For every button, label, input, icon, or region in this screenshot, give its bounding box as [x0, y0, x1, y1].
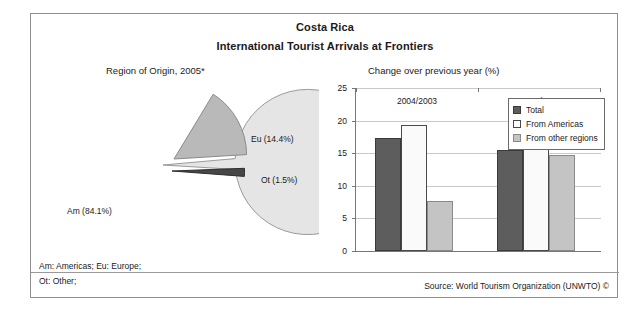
- y-tickmark-15: [352, 153, 356, 154]
- y-tick-25: 25: [325, 83, 347, 93]
- bar-chart-caption: Change over previous year (%): [368, 65, 499, 76]
- legend-label-total: Total: [526, 105, 544, 115]
- legend-item-americas: From Americas: [513, 117, 598, 131]
- pie-slice-other: [172, 168, 245, 176]
- y-tick-15: 15: [325, 148, 347, 158]
- chart-frame: Costa Rica International Tourist Arrival…: [30, 13, 618, 298]
- y-tick-5: 5: [325, 213, 347, 223]
- legend-swatch-americas: [513, 120, 521, 128]
- pie-slice-americas: [163, 89, 319, 234]
- pie-label-other: Ot (1.5%): [261, 175, 297, 185]
- y-tick-10: 10: [325, 181, 347, 191]
- legend-item-total: Total: [513, 103, 598, 117]
- bar-2004-2003-total: [375, 138, 401, 251]
- pie-label-americas: Am (84.1%): [67, 206, 112, 216]
- legend-swatch-total: [513, 106, 521, 114]
- screenshot-root: Costa Rica International Tourist Arrival…: [0, 0, 643, 313]
- pie-chart-canvas: Eu (14.4%) Ot (1.5%) Am (84.1%): [39, 80, 319, 250]
- y-tickmark-10: [352, 186, 356, 187]
- bar-2005-2004-total: [497, 150, 523, 251]
- page-subtitle: International Tourist Arrivals at Fronti…: [31, 40, 619, 52]
- footnote-abbreviations-line2: Ot: Other;: [39, 276, 76, 286]
- source-credit: Source: World Tourism Organization (UNWT…: [424, 281, 609, 291]
- x-tickmark-mid: [478, 88, 479, 92]
- y-tick-0: 0: [325, 246, 347, 256]
- bar-2004-2003-americas: [401, 125, 427, 251]
- bar-2005-2004-americas: [523, 145, 549, 251]
- bar-chart-legend: Total From Americas From other regions: [508, 98, 605, 150]
- y-tickmark-0: [352, 251, 356, 252]
- x-label-2004-2003: 2004/2003: [377, 96, 457, 106]
- y-tick-20: 20: [325, 116, 347, 126]
- bar-chart: 25 20 15 10 5 0: [325, 80, 613, 265]
- pie-chart: Eu (14.4%) Ot (1.5%) Am (84.1%): [39, 80, 319, 250]
- footnote-abbreviations-line1: Am: Americas; Eu: Europe;: [39, 261, 141, 271]
- legend-label-americas: From Americas: [526, 119, 583, 129]
- y-tickmark-5: [352, 218, 356, 219]
- bar-2004-2003-other: [427, 201, 453, 251]
- footer-divider: [31, 272, 619, 273]
- y-tickmark-20: [352, 121, 356, 122]
- x-tickmark-end: [600, 88, 601, 92]
- pie-chart-caption: Region of Origin, 2005*: [106, 65, 205, 76]
- pie-chart-svg: [39, 80, 319, 250]
- legend-item-other: From other regions: [513, 131, 598, 145]
- bar-chart-plot-area: 2004/2003 2005*/2004 Total From Americas…: [355, 88, 601, 252]
- pie-slice-europe: [174, 94, 247, 159]
- bar-2005-2004-other: [549, 155, 575, 252]
- legend-label-other: From other regions: [526, 133, 598, 143]
- x-tickmark-start: [356, 88, 357, 92]
- pie-label-europe: Eu (14.4%): [251, 134, 294, 144]
- legend-swatch-other: [513, 134, 521, 142]
- page-title: Costa Rica: [31, 21, 619, 33]
